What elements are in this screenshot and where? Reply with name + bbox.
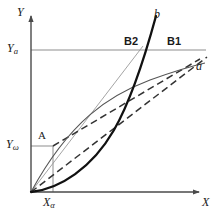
y-tick-sub-ya: a — [14, 46, 18, 56]
y-tick-sub-yw: ω — [13, 142, 19, 152]
point-label-b2: B2 — [124, 36, 138, 47]
figure-container: Y X Ya Yω Xα A B2 B1 a b — [0, 0, 215, 215]
y-tick-label-yw: Yω — [6, 138, 19, 150]
x-tick-label-xa: Xα — [43, 196, 55, 208]
curve-label-b: b — [154, 8, 160, 20]
figure-canvas — [0, 0, 215, 215]
point-label-a: A — [38, 130, 46, 141]
chord-origin-b2 — [31, 46, 143, 192]
y-tick-base-yw: Y — [6, 137, 13, 151]
y-axis-label: Y — [17, 6, 24, 18]
curve-a-path — [31, 63, 205, 192]
y-tick-base-ya: Y — [7, 41, 14, 55]
curve-label-a: a — [196, 60, 202, 72]
x-tick-sub-xa: α — [50, 200, 55, 210]
y-tick-label-ya: Ya — [7, 42, 18, 54]
point-label-b1: B1 — [167, 36, 181, 47]
x-axis-label: X — [202, 196, 209, 208]
